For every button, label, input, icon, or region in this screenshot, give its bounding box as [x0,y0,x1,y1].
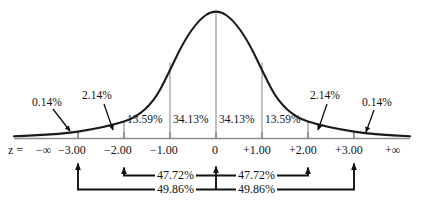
tail-label-left: 2.14% [82,90,112,102]
bracket-label-left-outer: 49.86% [156,183,195,195]
bracket-row-inner [124,167,308,176]
tail-label-far-left: 0.14% [32,97,62,109]
bracket-label-left-inner: 47.72% [156,169,195,181]
normal-distribution-figure: 13.59% 34.13% 34.13% 13.59% 0.14% 2.14% … [0,0,422,203]
band-label-neg1-0: 34.13% [173,114,208,126]
leader-arrow-far-left [53,109,70,131]
axis-tick-pos1: +1.00 [243,144,271,156]
axis-tick-neg3: −3.00 [58,144,86,156]
axis-tick-neg1: −1.00 [150,144,178,156]
band-label-0-pos1: 34.13% [219,114,254,126]
bracket-label-right-outer: 49.86% [237,183,276,195]
axis-tick-pos3: +3.00 [335,144,363,156]
axis-tick-zero: 0 [212,144,218,156]
axis-tick-neg2: −2.00 [104,144,132,156]
axis-z-prefix: z = [8,144,23,156]
axis-tick-neg-inf: −∞ [36,144,51,156]
normal-curve [14,12,410,137]
tail-label-right: 2.14% [310,90,340,102]
axis-tick-pos2: +2.00 [289,144,317,156]
leader-arrow-far-right [366,110,374,132]
band-label-neg2-neg1: 13.59% [127,114,162,126]
bracket-label-right-inner: 47.72% [237,169,276,181]
distribution-drawing [0,0,422,203]
tail-label-far-right: 0.14% [362,97,392,109]
band-label-pos1-pos2: 13.59% [265,114,300,126]
axis-tick-pos-inf: +∞ [385,144,400,156]
